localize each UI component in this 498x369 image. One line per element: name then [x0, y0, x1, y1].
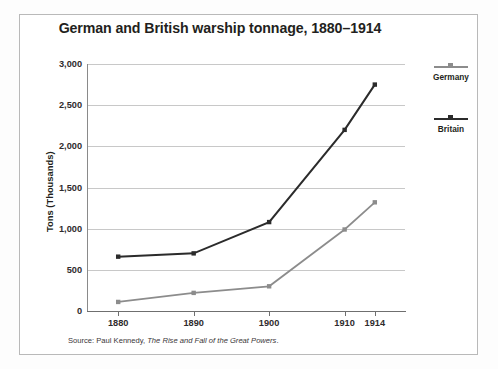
x-axis-tick [375, 311, 376, 316]
series-line-germany [118, 202, 375, 302]
x-axis-tick-label: 1880 [108, 318, 128, 328]
legend-label: Britain [424, 124, 478, 134]
source-prefix: Source: Paul Kennedy, [68, 336, 147, 345]
chart-figure: German and British warship tonnage, 1880… [0, 0, 498, 369]
data-point-marker [342, 227, 346, 231]
x-axis-tick-label: 1910 [334, 318, 354, 328]
y-axis-tick-label: 1,000 [36, 224, 82, 234]
data-point-marker [267, 220, 271, 224]
y-axis-tick-label: 500 [36, 265, 82, 275]
legend-label: Germany [424, 72, 478, 82]
x-axis-tick-label: 1890 [183, 318, 203, 328]
chart-title: German and British warship tonnage, 1880… [20, 20, 420, 36]
plot-area [88, 64, 405, 311]
legend-item-britain[interactable]: Britain [424, 114, 478, 134]
legend-marker [448, 63, 453, 68]
x-axis-tick [194, 311, 195, 316]
data-point-marker [373, 82, 377, 86]
data-point-marker [191, 251, 195, 255]
source-note: Source: Paul Kennedy, The Rise and Fall … [68, 336, 279, 345]
legend-item-germany[interactable]: Germany [424, 62, 478, 82]
y-axis-tick-label: 2,000 [36, 141, 82, 151]
legend-marker [448, 115, 453, 120]
series-layer [88, 64, 405, 311]
data-point-marker [191, 291, 195, 295]
data-point-marker [116, 254, 120, 258]
x-axis-line [87, 311, 406, 312]
data-point-marker [116, 300, 120, 304]
y-axis-tick-label: 1,500 [36, 183, 82, 193]
y-axis-tick-label: 3,000 [36, 59, 82, 69]
x-axis-tick [118, 311, 119, 316]
y-axis-tick-label: 2,500 [36, 100, 82, 110]
x-axis-tick-label: 1914 [365, 318, 385, 328]
x-axis-tick [345, 311, 346, 316]
x-axis-tick [269, 311, 270, 316]
source-work-title: The Rise and Fall of the Great Powers [147, 336, 276, 345]
legend-swatch-icon [434, 114, 468, 123]
y-axis-tick-labels: 3,0002,5002,0001,5001,0005000 [32, 64, 82, 311]
source-suffix: . [276, 336, 278, 345]
data-point-marker [342, 128, 346, 132]
data-point-marker [373, 200, 377, 204]
y-axis-tick-label: 0 [36, 306, 82, 316]
data-point-marker [267, 284, 271, 288]
x-axis-tick-label: 1900 [259, 318, 279, 328]
legend-swatch-icon [434, 62, 468, 71]
series-line-britain [118, 85, 375, 257]
